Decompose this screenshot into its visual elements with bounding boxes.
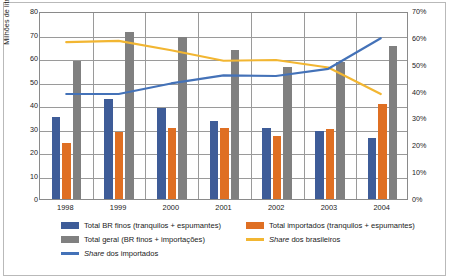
legend-label: Total BR finos (tranquilos + espumantes): [84, 221, 221, 230]
x-axis-tick-label: 2002: [250, 203, 302, 212]
legend-label: Total importados (tranquilos + espumante…: [269, 221, 415, 230]
y2-axis-tick-label: 10%: [412, 169, 442, 177]
legend-item[interactable]: Share dos importados: [61, 249, 158, 258]
y2-axis-tick-label: 60%: [412, 35, 442, 43]
line-series: [66, 41, 380, 94]
legend-label: Share dos brasileiros: [269, 235, 340, 244]
legend-item[interactable]: Total BR finos (tranquilos + espumantes): [61, 221, 221, 230]
legend-color-swatch: [61, 236, 79, 243]
y-axis-tick-label: 20: [14, 149, 38, 157]
legend-item[interactable]: Share dos brasileiros: [246, 235, 340, 244]
y2-axis-tick-label: 0%: [412, 196, 442, 204]
y2-axis-tick-label: 70%: [412, 8, 442, 16]
chart-frame: Milhões de litros 01020304050607080 0%10…: [3, 2, 446, 276]
x-axis-tick-label: 2000: [145, 203, 197, 212]
legend-line-swatch: [61, 252, 79, 255]
y-axis-tick-label: 60: [14, 55, 38, 63]
y-axis-tick-label: 40: [14, 102, 38, 110]
x-axis-tick-label: 2004: [356, 203, 408, 212]
y2-axis-tick-label: 30%: [412, 115, 442, 123]
x-axis-tick-label: 2003: [303, 203, 355, 212]
x-axis-tick-label: 1998: [39, 203, 91, 212]
legend-color-swatch: [246, 222, 264, 229]
y-axis-tick-label: 80: [14, 8, 38, 16]
y-axis-tick-label: 30: [14, 126, 38, 134]
legend-label: Share dos importados: [84, 249, 158, 258]
legend-item[interactable]: Total geral (BR finos + importações): [61, 235, 205, 244]
legend-item[interactable]: Total importados (tranquilos + espumante…: [246, 221, 415, 230]
plot-area: [39, 12, 408, 200]
line-series-container: [40, 13, 407, 199]
legend-line-swatch: [246, 238, 264, 241]
x-axis-tick-label: 2001: [198, 203, 250, 212]
legend-color-swatch: [61, 222, 79, 229]
legend-label: Total geral (BR finos + importações): [84, 235, 205, 244]
line-series: [66, 38, 380, 94]
y-axis-tick-label: 70: [14, 32, 38, 40]
x-axis-tick-label: 1999: [92, 203, 144, 212]
y-axis-tick-label: 0: [14, 196, 38, 204]
y2-axis-tick-label: 50%: [412, 62, 442, 70]
y2-axis-tick-label: 20%: [412, 142, 442, 150]
chart-legend: Total BR finos (tranquilos + espumantes)…: [39, 221, 439, 271]
y-axis-tick-label: 50: [14, 79, 38, 87]
y-axis-title: Milhões de litros: [2, 0, 11, 63]
y-axis-tick-label: 10: [14, 173, 38, 181]
y2-axis-tick-label: 40%: [412, 89, 442, 97]
